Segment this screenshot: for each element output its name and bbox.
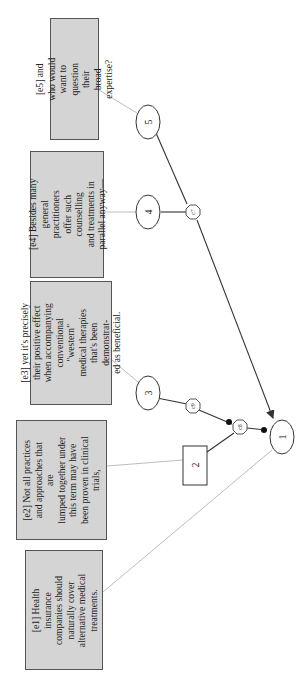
node-4-label: 4 [143, 210, 154, 215]
evidence-text-e1: [e1] Health insurance companies should n… [30, 572, 99, 648]
evidence-text-e2: [e2] Not all practices and approaches th… [21, 436, 102, 525]
edge-2-c8 [207, 433, 234, 452]
edge-3-c9 [157, 398, 187, 404]
node-5-label: 5 [143, 120, 154, 125]
evidence-text-e3: [e3] yet it's precisely their positive e… [19, 303, 123, 383]
node-c8[interactable]: c8 [233, 420, 247, 434]
argument-edges [156, 133, 273, 452]
node-c7[interactable]: c7 [186, 205, 200, 219]
evidence-box-e3[interactable]: [e3] yet it's precisely their positive e… [30, 281, 112, 405]
edge-c7-1 [197, 220, 273, 418]
edge-5-c7 [156, 133, 187, 204]
argument-diagram: 5 4 3 1 2 c7 c9 c8 [0, 0, 306, 687]
evidence-box-e4[interactable]: [e4] Besides many general practitioners … [30, 151, 104, 278]
node-3[interactable]: 3 [136, 376, 160, 410]
node-4[interactable]: 4 [136, 195, 160, 229]
node-5[interactable]: 5 [136, 105, 160, 139]
node-c9-label: c9 [190, 403, 196, 409]
evidence-text-e5: [e5] and who would want to question thei… [34, 56, 115, 103]
node-2-label: 2 [190, 463, 201, 468]
node-c8-label: c8 [237, 424, 243, 430]
evidence-box-e1[interactable]: [e1] Health insurance companies should n… [25, 550, 103, 670]
node-1-label: 1 [277, 435, 288, 440]
attack-dot-c8-1 [261, 427, 267, 433]
evidence-box-e5[interactable]: [e5] and who would want to question thei… [50, 18, 99, 140]
node-3-label: 3 [143, 391, 154, 396]
evidence-links [99, 90, 272, 592]
attack-dot-c9-c8 [226, 419, 232, 425]
node-2[interactable]: 2 [183, 446, 207, 485]
evidence-box-e2[interactable]: [e2] Not all practices and approaches th… [16, 420, 107, 540]
node-c9[interactable]: c9 [186, 399, 200, 413]
evidence-text-e4: [e4] Besides many general practitioners … [27, 179, 108, 251]
link-e2-2 [107, 460, 183, 466]
node-c7-label: c7 [190, 209, 196, 215]
node-1[interactable]: 1 [270, 420, 294, 454]
